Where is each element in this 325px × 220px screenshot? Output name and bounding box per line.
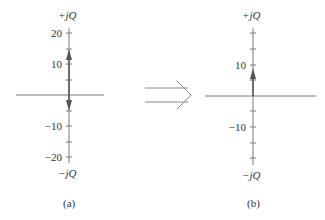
panel-a-axes (16, 28, 104, 163)
panel-a-tick-neg10: −10 (32, 121, 62, 132)
panel-b-phasor-up-arrow (250, 68, 256, 96)
panel-a-phasor-up-arrow (66, 49, 72, 95)
panel-b-tick-10: 10 (216, 60, 246, 71)
panel-a-tick-10: 10 (32, 59, 62, 70)
panel-b-top-axis-label: +jQ (242, 10, 260, 21)
panel-b-axes (205, 28, 316, 165)
panel-a-tick-neg20: −20 (32, 152, 62, 163)
panel-a-bottom-axis-label: −jQ (58, 168, 76, 179)
double-arrow-icon (145, 81, 191, 109)
panel-b-tick-neg10: −10 (216, 122, 246, 133)
panel-b-caption: (b) (247, 198, 260, 209)
panel-a-top-axis-label: +jQ (58, 10, 76, 21)
panel-a-caption: (a) (63, 198, 75, 209)
panel-a-phasor-down-arrow (66, 95, 72, 111)
panel-a-tick-20: 20 (32, 28, 62, 39)
panel-b-bottom-axis-label: −jQ (242, 170, 260, 181)
